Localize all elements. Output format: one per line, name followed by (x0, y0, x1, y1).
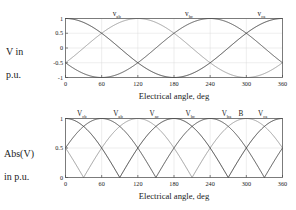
svg-text:180: 180 (169, 80, 178, 87)
svg-text:300: 300 (242, 80, 251, 87)
top-panel: 060120180240300360 -1-0.500.51 vabvbcvca… (53, 10, 287, 101)
curve-label-vca: vca (258, 10, 266, 19)
svg-text:0: 0 (64, 80, 67, 87)
curve-label-vab: vab (113, 10, 122, 19)
curve-label-Vab: Vab (113, 110, 123, 119)
bottom-panel-ylabel: Abs(V) in p.u. (4, 136, 60, 182)
bottom-xaxis-title: Electrical angle, deg (139, 191, 210, 201)
svg-text:1: 1 (60, 15, 63, 22)
top-panel-ylabel: V in p.u. (6, 34, 58, 80)
bottom-ylabel-line2: in p.u. (4, 171, 29, 182)
svg-text:180: 180 (169, 180, 178, 187)
svg-text:60: 60 (99, 80, 105, 87)
svg-text:360: 360 (278, 80, 287, 87)
svg-text:120: 120 (133, 80, 142, 87)
svg-text:240: 240 (206, 80, 215, 87)
curve-label-Vcb: Vcb (77, 110, 87, 119)
bottom-xticks: 060120180240300360 (64, 175, 287, 187)
curve-label-Vbc: Vbc (185, 110, 195, 119)
svg-text:240: 240 (206, 180, 215, 187)
curve-label-vbc: vbc (185, 10, 193, 19)
curve-label-Vba: Vba (222, 110, 232, 119)
svg-text:-1: -1 (58, 74, 63, 81)
top-xaxis-title: Electrical angle, deg (139, 91, 210, 101)
curve-label-B: B (239, 110, 244, 118)
svg-text:0: 0 (60, 174, 63, 181)
curve-label-Vac: Vac (149, 110, 158, 119)
top-curve-labels: vabvbcvca (113, 10, 265, 19)
svg-text:0: 0 (64, 180, 67, 187)
svg-text:0: 0 (60, 44, 63, 51)
bottom-panel: 060120180240300360 00.51 VcbVabVacVbcVba… (55, 110, 287, 201)
top-ylabel-line1: V in (6, 46, 23, 57)
top-gridlines (66, 19, 283, 78)
svg-text:60: 60 (99, 180, 105, 187)
svg-text:300: 300 (242, 180, 251, 187)
svg-text:360: 360 (278, 180, 287, 187)
figure-container: V in p.u. Abs(V) in p.u. 060120180240300… (0, 0, 296, 210)
curve-label-Vca: Vca (258, 110, 267, 119)
bottom-curve-labels: VcbVabVacVbcVbaBVca (77, 110, 267, 119)
bottom-ylabel-line1: Abs(V) (4, 148, 34, 159)
svg-text:120: 120 (133, 180, 142, 187)
svg-text:1: 1 (60, 115, 63, 122)
top-ylabel-line2: p.u. (6, 69, 21, 80)
